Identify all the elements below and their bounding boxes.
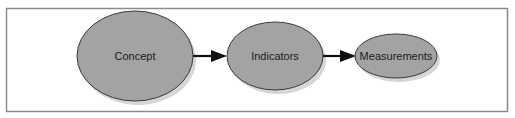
node-indicators: Indicators bbox=[227, 22, 323, 90]
node-measurements-label: Measurements bbox=[360, 50, 433, 62]
node-indicators-label: Indicators bbox=[251, 50, 299, 62]
node-concept-label: Concept bbox=[115, 50, 156, 62]
node-concept: Concept bbox=[77, 11, 193, 101]
flow-diagram: Concept Indicators Measurements bbox=[0, 0, 515, 118]
node-measurements: Measurements bbox=[355, 34, 437, 78]
